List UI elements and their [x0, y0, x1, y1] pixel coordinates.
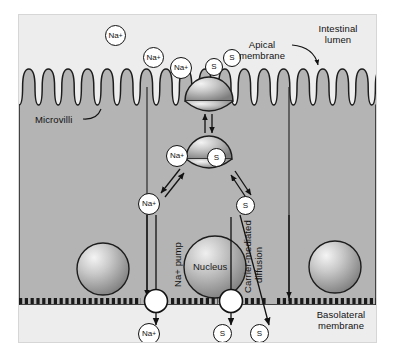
molecule-label: S — [220, 330, 225, 338]
label-intestinal-lumen: Intestinal lumen — [306, 23, 370, 45]
molecule-label: Na — [142, 330, 152, 338]
molecule-label: S — [214, 154, 219, 162]
molecule-s-cytoplasm: S — [236, 196, 255, 215]
figure-canvas: Na+ Na+ Na+ S S Na+ S Na+ S Na+ — [0, 0, 394, 357]
molecule-label: S — [243, 202, 248, 210]
label-diffusion: diffusion — [253, 247, 264, 283]
label-apical-membrane: Apical membrane — [231, 39, 293, 61]
molecule-s-apical-bound: S — [205, 58, 223, 76]
neighbor-nucleus-right — [309, 241, 361, 293]
molecule-s-interstitial-2: S — [250, 324, 269, 343]
neighbor-nucleus-left — [77, 243, 129, 295]
molecule-label: Na — [174, 64, 184, 72]
molecule-label: S — [257, 330, 262, 338]
molecule-na-interstitial: Na+ — [138, 323, 160, 343]
molecule-na-lumen-1: Na+ — [105, 25, 126, 46]
molecule-label: Na — [108, 32, 118, 40]
label-nucleus: Nucleus — [193, 261, 227, 272]
diagram-frame: Na+ Na+ Na+ S S Na+ S Na+ S Na+ — [18, 14, 377, 343]
molecule-na-lumen-3: Na+ — [170, 57, 192, 79]
molecule-label: S — [211, 63, 216, 71]
molecule-na-cytoplasm: Na+ — [138, 193, 160, 215]
molecule-s-carrier-bound: S — [207, 148, 226, 167]
molecule-s-interstitial-1: S — [213, 324, 232, 343]
molecule-label: Na — [142, 200, 152, 208]
label-na-pump: Na+ pump — [172, 242, 183, 287]
carrier-protein-basolateral — [220, 290, 243, 313]
molecule-label: Na — [146, 54, 156, 62]
label-microvilli: Microvilli — [35, 114, 72, 125]
diagram-svg — [19, 15, 376, 342]
molecule-na-carrier-bound: Na+ — [166, 145, 188, 167]
label-basolateral-membrane: Basolateral membrane — [307, 309, 375, 331]
molecule-na-lumen-2: Na+ — [143, 47, 164, 68]
molecule-label: Na — [170, 152, 180, 160]
label-carrier-mediated: Carrier-mediated — [242, 220, 253, 293]
sodium-pump — [145, 290, 168, 313]
